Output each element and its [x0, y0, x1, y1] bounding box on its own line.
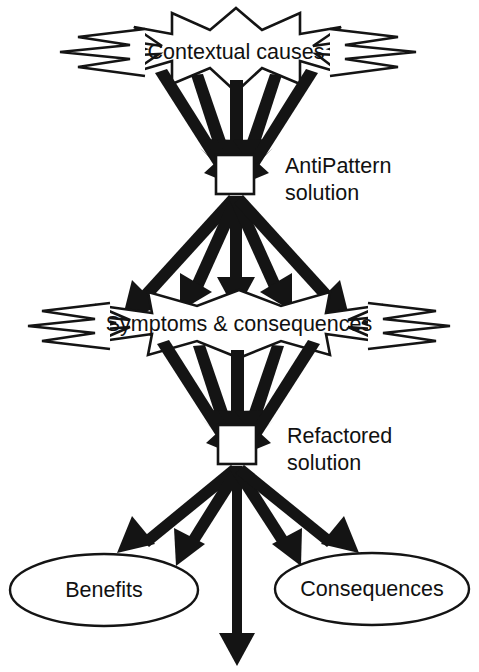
- arrow-refactor-3: [231, 350, 244, 418]
- label-antipattern-solution-line1: AntiPattern: [285, 154, 391, 178]
- node-consequences: Consequences: [275, 553, 469, 625]
- explosion-spike-right-symptoms: [368, 303, 450, 349]
- label-antipattern-solution-line2: solution: [285, 181, 359, 205]
- arrow-down-center: [232, 466, 242, 642]
- explosion-spike-left-contextual: [60, 29, 145, 76]
- node-symptoms-consequences: Symptoms & consequences: [28, 290, 450, 358]
- diagram-canvas: Contextual causes AntiPattern solution: [0, 0, 479, 672]
- arrow-down-center-head: [219, 633, 255, 666]
- label-refactored-solution-line2: solution: [287, 451, 361, 475]
- node-benefits: Benefits: [10, 554, 198, 626]
- label-benefits: Benefits: [65, 578, 143, 602]
- arrow-cause-3: [230, 80, 243, 147]
- label-contextual-causes: Contextual causes: [148, 40, 325, 64]
- explosion-spike-right-contextual: [330, 29, 416, 76]
- explosion-spike-left-symptoms: [28, 303, 110, 349]
- node-contextual-causes: Contextual causes: [60, 8, 416, 92]
- box-antipattern-solution: [216, 155, 254, 194]
- label-consequences: Consequences: [300, 577, 443, 601]
- label-symptoms-consequences: Symptoms & consequences: [106, 312, 373, 336]
- antipattern-diagram: Contextual causes AntiPattern solution: [0, 0, 479, 672]
- box-refactored-solution: [218, 425, 256, 464]
- label-refactored-solution-line1: Refactored: [287, 424, 392, 448]
